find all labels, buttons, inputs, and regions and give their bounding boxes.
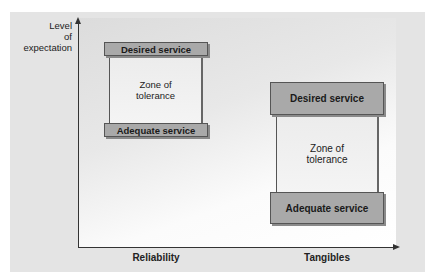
x-axis bbox=[78, 247, 394, 248]
adequate-service-bar: Adequate service bbox=[270, 192, 384, 224]
adequate-service-bar: Adequate service bbox=[104, 123, 208, 137]
x-label-tangibles: Tangibles bbox=[304, 252, 350, 263]
zone-label-line: tolerance bbox=[136, 90, 175, 101]
zone-of-tolerance: Zone of tolerance bbox=[276, 115, 379, 192]
x-axis-arrow-icon bbox=[393, 244, 400, 250]
y-axis-label: Level of expectation bbox=[23, 20, 72, 53]
y-axis-label-line: expectation bbox=[23, 42, 72, 53]
zone-label-line: Zone of bbox=[306, 143, 347, 154]
y-axis-label-line: Level bbox=[23, 20, 72, 31]
y-axis-arrow-icon bbox=[75, 17, 81, 24]
desired-service-bar: Desired service bbox=[104, 42, 208, 56]
desired-service-bar: Desired service bbox=[270, 82, 384, 115]
zone-label-line: tolerance bbox=[306, 154, 347, 165]
y-axis bbox=[78, 22, 79, 247]
y-axis-label-line: of bbox=[23, 31, 72, 42]
zone-of-tolerance: Zone of tolerance bbox=[109, 56, 203, 123]
zone-label-line: Zone of bbox=[136, 79, 175, 90]
x-label-reliability: Reliability bbox=[132, 252, 179, 263]
